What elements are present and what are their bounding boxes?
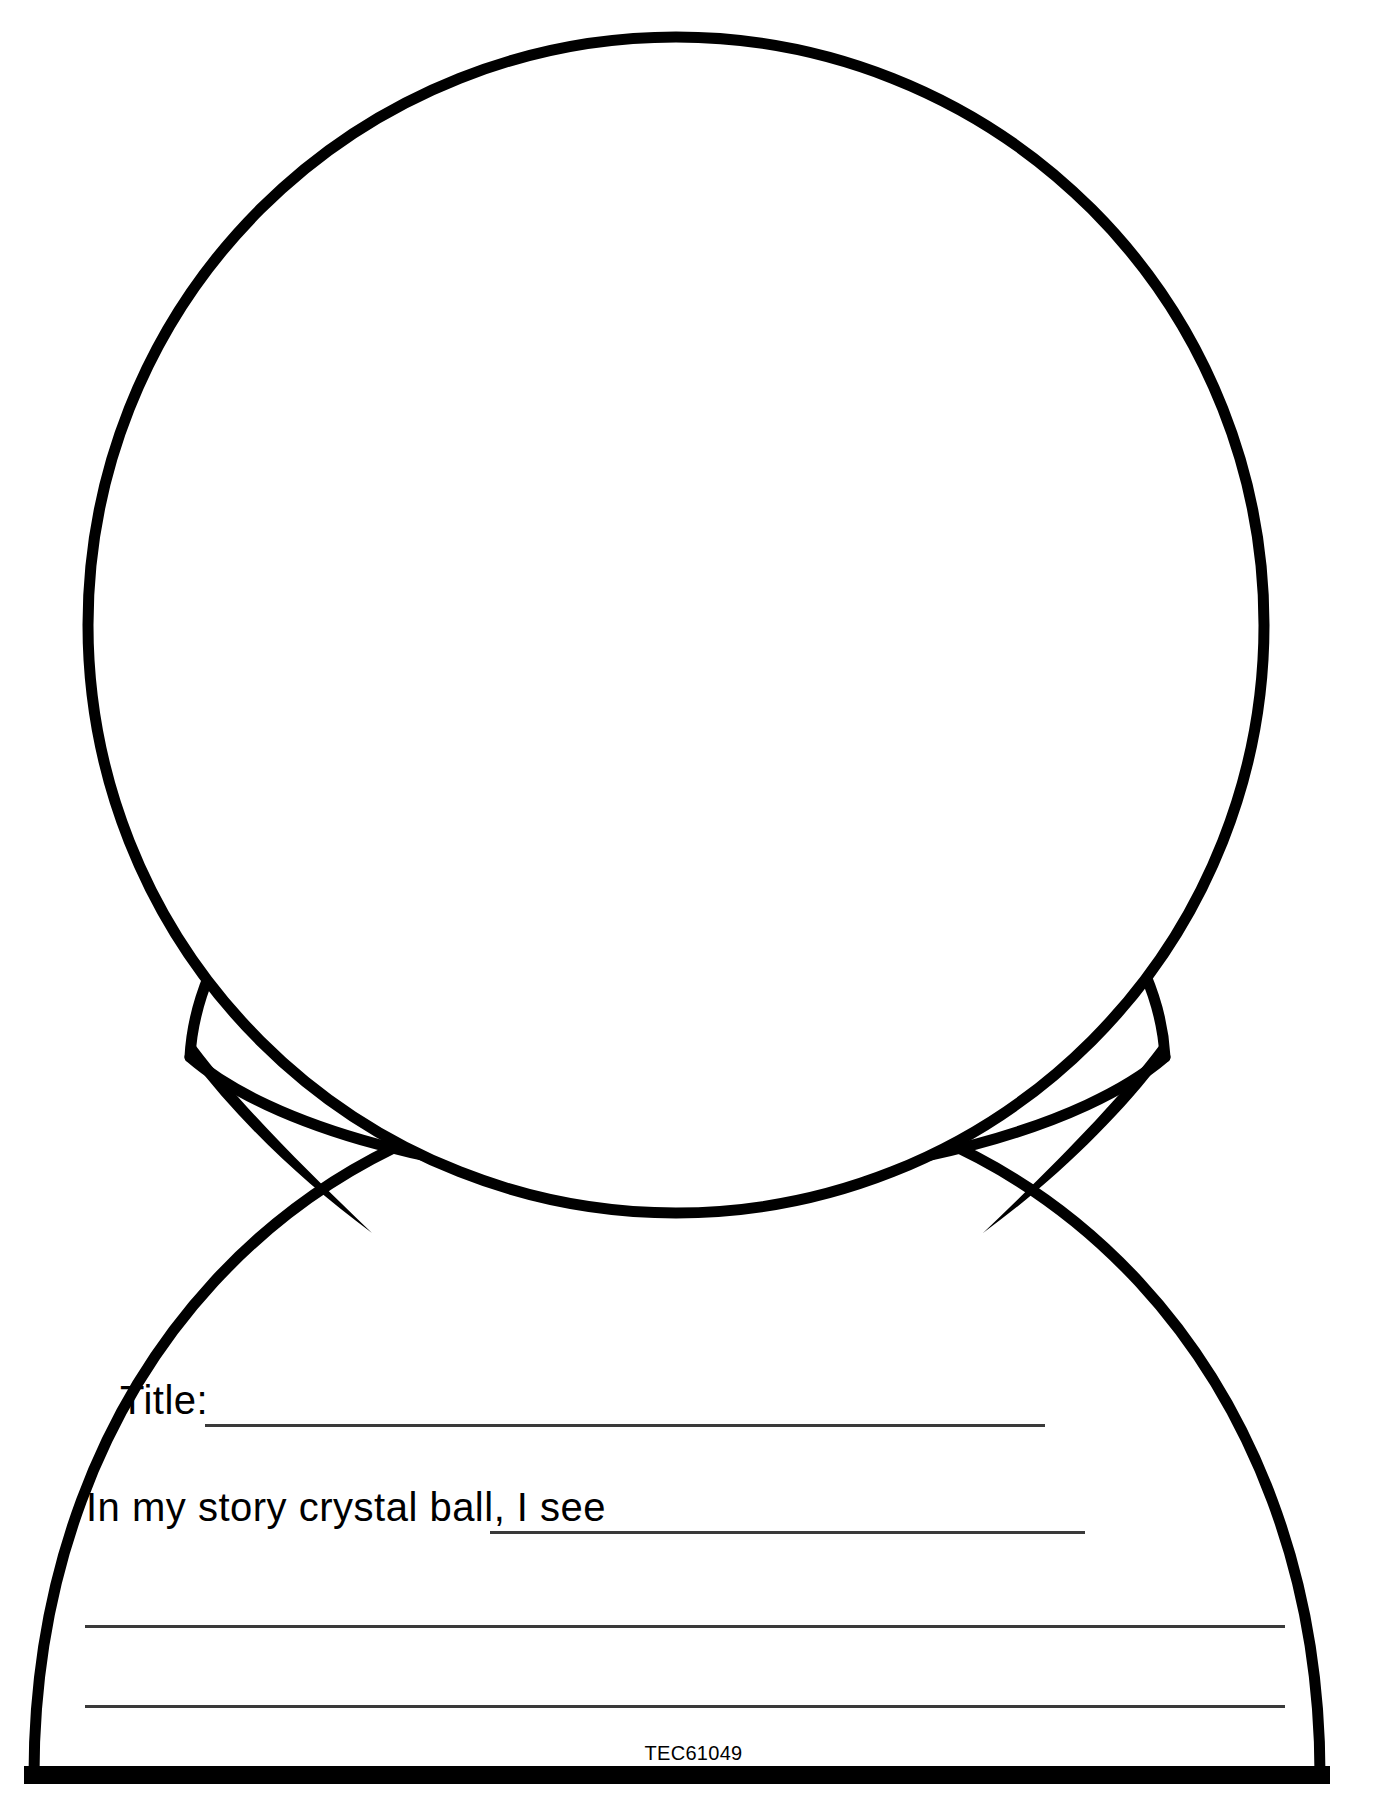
title-input-line[interactable] bbox=[205, 1424, 1045, 1427]
title-label: Title: bbox=[120, 1378, 208, 1423]
prompt-label: In my story crystal ball, I see bbox=[86, 1485, 606, 1530]
worksheet-page: Title: In my story crystal ball, I see T… bbox=[0, 0, 1387, 1820]
crystal-ball-sphere bbox=[88, 37, 1264, 1213]
product-code: TEC61049 bbox=[0, 1742, 1387, 1765]
crystal-ball-illustration bbox=[0, 0, 1387, 1820]
writing-line-1[interactable] bbox=[85, 1625, 1285, 1628]
writing-line-2[interactable] bbox=[85, 1705, 1285, 1708]
prompt-input-line[interactable] bbox=[490, 1531, 1085, 1534]
